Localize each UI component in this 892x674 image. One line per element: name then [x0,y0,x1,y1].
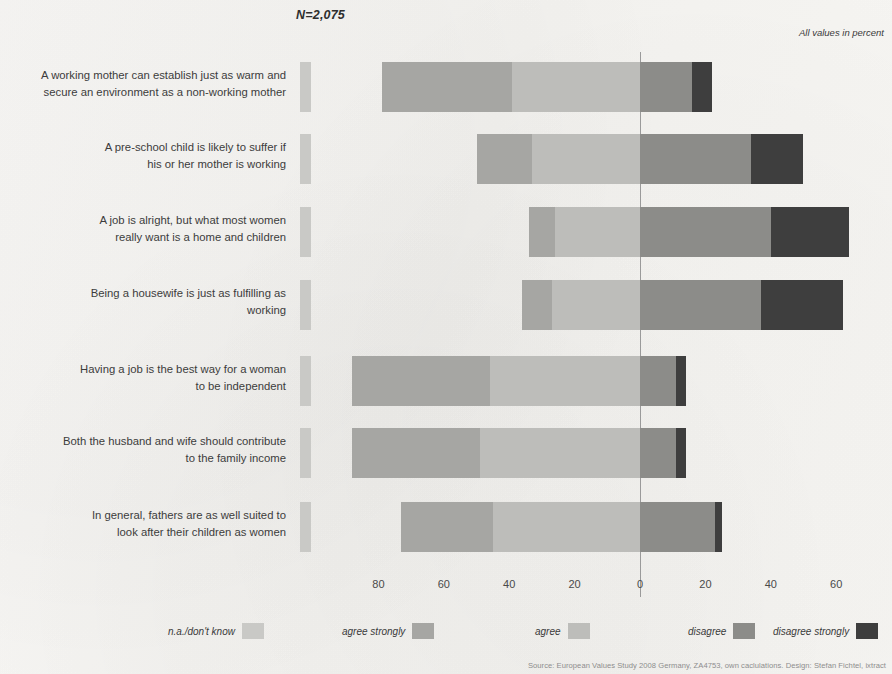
legend-item-label: n.a./don't know [168,626,235,637]
bar-stack [0,498,892,554]
bar-row: Having a job is the best way for a woman… [0,352,892,408]
bar-stack [0,203,892,259]
legend-swatch [856,623,878,639]
bar-segment-disagree [640,356,676,406]
bar-segment-disagree-strongly [692,62,712,112]
legend-item-label: disagree strongly [773,626,849,637]
bar-segment-agree-strongly [401,502,493,552]
bar-row: In general, fathers are as well suited t… [0,498,892,554]
bar-stack [0,276,892,332]
bar-segment-disagree [640,62,692,112]
bar-segment-na [300,62,311,112]
bar-segment-disagree-strongly [761,280,843,330]
bar-segment-agree [480,428,640,478]
bar-segment-disagree [640,280,761,330]
bar-segment-na [300,502,311,552]
plot-area: A working mother can establish just as w… [0,48,892,578]
bar-stack [0,130,892,186]
axis-tick-label: 60 [424,578,464,590]
bar-row: Being a housewife is just as fulfilling … [0,276,892,332]
legend-item: disagree [688,620,755,642]
bar-segment-agree [493,502,640,552]
axis-tick-label: 40 [489,578,529,590]
axis-tick-label: 40 [751,578,791,590]
legend-item: n.a./don't know [168,620,264,642]
source-note: Source: European Values Study 2008 Germa… [528,661,886,670]
chart-page: N=2,075 All values in percent A working … [0,0,892,674]
axis-tick-label: 20 [555,578,595,590]
bar-segment-agree-strongly [352,428,480,478]
bar-segment-disagree-strongly [771,207,849,257]
bar-segment-na [300,280,311,330]
bar-segment-agree [532,134,640,184]
bar-row: A job is alright, but what most womenrea… [0,203,892,259]
sample-size-label: N=2,075 [296,8,345,22]
bar-segment-disagree [640,207,771,257]
bar-segment-na [300,428,311,478]
bar-segment-disagree-strongly [676,428,686,478]
legend-item: disagree strongly [773,620,878,642]
bar-segment-disagree-strongly [751,134,803,184]
legend-swatch [412,623,434,639]
units-note: All values in percent [799,27,884,38]
axis-tick-label: 0 [620,578,660,590]
axis-tick-label: 20 [685,578,725,590]
legend-item-label: agree strongly [342,626,405,637]
x-axis: 806040200204060 [0,578,892,600]
bar-segment-agree-strongly [529,207,555,257]
bar-segment-disagree-strongly [676,356,686,406]
legend-swatch [733,623,755,639]
axis-tick-label: 80 [358,578,398,590]
bar-segment-agree-strongly [382,62,513,112]
legend-swatch [242,623,264,639]
bar-segment-agree [512,62,640,112]
bar-segment-disagree [640,502,715,552]
bar-stack [0,424,892,480]
bar-segment-agree [490,356,640,406]
bar-segment-disagree-strongly [715,502,722,552]
legend-item-label: agree [535,626,561,637]
bar-segment-agree-strongly [352,356,489,406]
legend-item: agree strongly [342,620,434,642]
bar-segment-na [300,134,311,184]
legend-item: agree [535,620,590,642]
bar-segment-agree-strongly [477,134,533,184]
bar-stack [0,58,892,114]
bar-row: A pre-school child is likely to suffer i… [0,130,892,186]
axis-tick-label: 60 [816,578,856,590]
bar-row: A working mother can establish just as w… [0,58,892,114]
bar-segment-agree [555,207,640,257]
legend-swatch [568,623,590,639]
bar-stack [0,352,892,408]
bar-segment-agree [552,280,640,330]
bar-segment-agree-strongly [522,280,551,330]
chart-legend: n.a./don't knowagree stronglyagreedisagr… [0,620,892,646]
legend-item-label: disagree [688,626,726,637]
bar-segment-disagree [640,134,751,184]
bar-segment-na [300,356,311,406]
bar-row: Both the husband and wife should contrib… [0,424,892,480]
bar-segment-disagree [640,428,676,478]
bar-segment-na [300,207,311,257]
